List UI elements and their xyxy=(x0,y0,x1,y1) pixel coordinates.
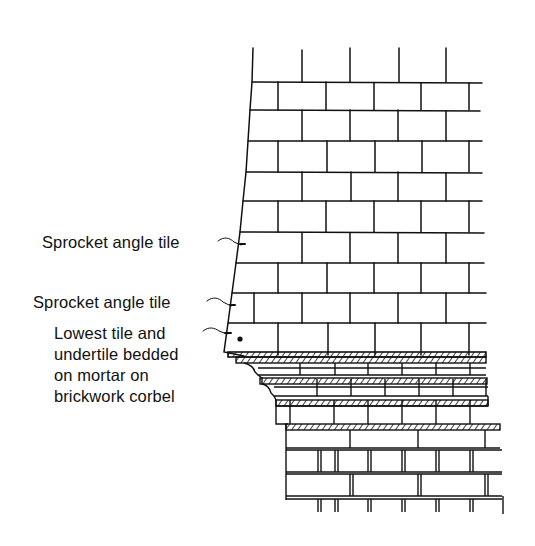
brickwork-corbel xyxy=(228,352,503,514)
label-sprocket-angle-tile-upper: Sprocket angle tile xyxy=(42,232,180,253)
label-sprocket-angle-tile-lower: Sprocket angle tile xyxy=(33,292,171,313)
leader-lines xyxy=(203,238,241,334)
tile-hanging-diagram xyxy=(0,0,535,546)
tile-courses xyxy=(224,48,486,356)
nail-mark xyxy=(237,336,242,341)
label-lowest-tile-bedded: Lowest tile and undertile bedded on mort… xyxy=(54,323,179,407)
sprocket-edge xyxy=(224,48,253,356)
